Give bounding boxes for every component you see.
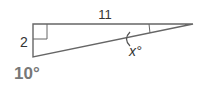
- angle-label: x°: [128, 43, 142, 59]
- triangle: [33, 24, 193, 57]
- side-label-top: 11: [98, 7, 112, 22]
- side-label-left: 2: [20, 34, 28, 50]
- triangle-diagram: 11 2 x° 10°: [0, 0, 208, 103]
- right-angle-marker: [33, 24, 47, 39]
- problem-number: 10°: [14, 64, 40, 83]
- angle-tick-mark: [149, 24, 150, 33]
